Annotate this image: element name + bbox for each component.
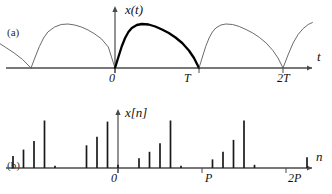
panel-a-plot: [0, 0, 332, 97]
panel-b-plot: [0, 97, 332, 194]
panel-continuous-time: (a) x(t) 0 T 2T t: [0, 0, 332, 97]
panel-discrete-time: (b) x[n] 0 P 2P n: [0, 97, 332, 194]
signal-figure: (a) x(t) 0 T 2T t (b) x[n] 0 P 2P n: [0, 0, 332, 194]
